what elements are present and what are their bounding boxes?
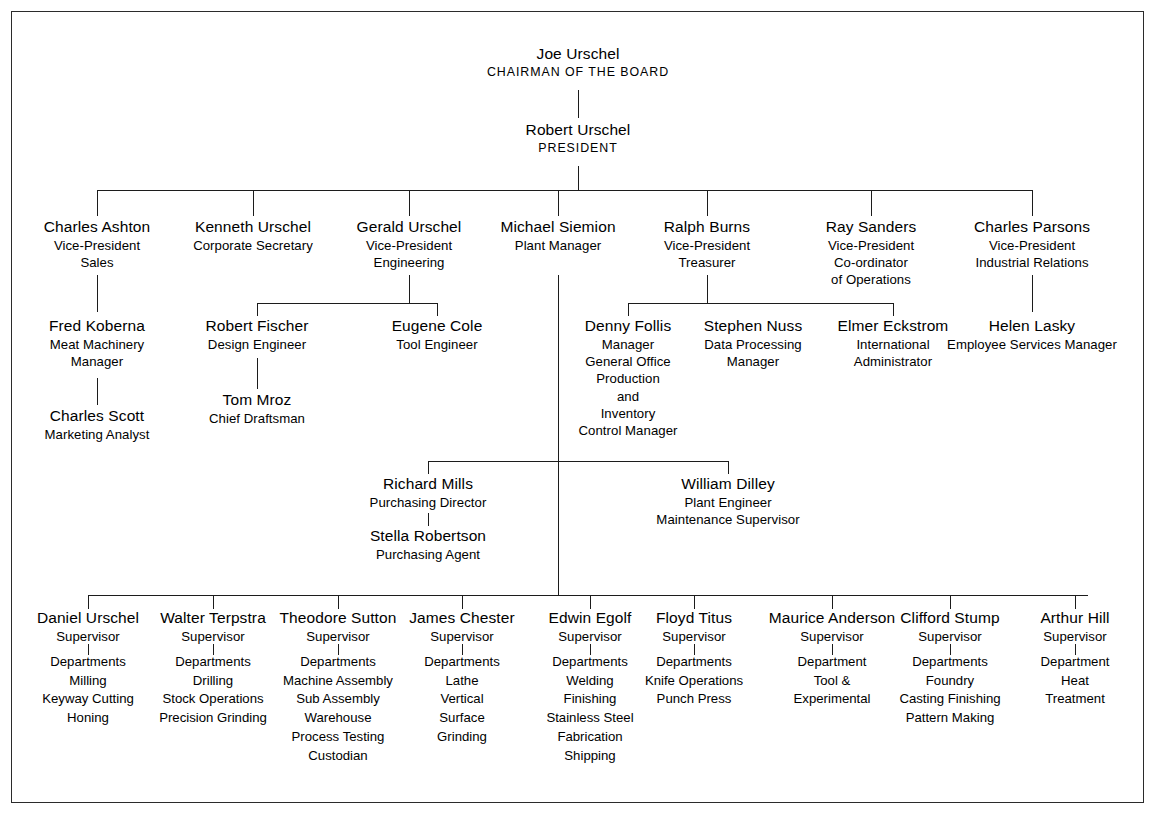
exec-title-2: Co-ordinator (781, 254, 961, 271)
node-richard-mills: Richard Mills Purchasing Director (338, 474, 518, 511)
connector-fischer-mroz (257, 358, 258, 389)
drop-exec-6 (1032, 190, 1033, 216)
node-charles-ashton: Charles Ashton Vice-President Sales (7, 217, 187, 271)
drop-sup-6 (832, 595, 833, 609)
person-name: Charles Scott (7, 406, 187, 426)
dept-header: Departments (614, 653, 774, 672)
exec-title-2: Sales (7, 254, 187, 271)
exec-title-1: Vice-President (617, 237, 797, 254)
drop-sup-4 (590, 595, 591, 609)
person-name: Helen Lasky (922, 316, 1142, 336)
node-ray-sanders: Ray Sanders Vice-President Co-ordinator … (781, 217, 961, 289)
person-name: Stella Robertson (338, 526, 518, 546)
person-title-6: Control Manager (548, 422, 708, 439)
person-title-1: Purchasing Agent (338, 546, 518, 563)
connector-president-bus (578, 166, 579, 190)
connector-chairman-president (578, 90, 579, 118)
supervisor-name: Arthur Hill (1000, 608, 1150, 628)
person-title-2: Manager (7, 353, 187, 370)
exec-title-1: Vice-President (942, 237, 1122, 254)
spine-plant-manager (558, 275, 559, 595)
drop-treas-eckstrom (893, 303, 894, 316)
person-title-1: Meat Machinery (7, 336, 187, 353)
exec-title-1: Vice-President (781, 237, 961, 254)
person-title-4: and (548, 388, 708, 405)
node-stella-robertson: Stella Robertson Purchasing Agent (338, 526, 518, 563)
bus-executive (97, 190, 1032, 191)
connector-mills-robertson (428, 513, 429, 526)
drop-exec-0 (97, 190, 98, 216)
dept-item: Punch Press (614, 690, 774, 709)
drop-sup-7 (950, 595, 951, 609)
bus-supervisors (88, 595, 1088, 596)
chairman-name: Joe Urschel (428, 44, 728, 64)
node-eugene-cole: Eugene Cole Tool Engineer (347, 316, 527, 353)
drop-eng-fischer (257, 303, 258, 316)
node-ralph-burns: Ralph Burns Vice-President Treasurer (617, 217, 797, 271)
exec-title-2: Treasurer (617, 254, 797, 271)
drop-exec-2 (409, 190, 410, 216)
exec-title-1: Vice-President (7, 237, 187, 254)
dept-item: Custodian (258, 747, 418, 766)
node-robert-fischer: Robert Fischer Design Engineer (167, 316, 347, 353)
bus-engineering (257, 303, 437, 304)
person-title-1: Tool Engineer (347, 336, 527, 353)
chairman-title: CHAIRMAN OF THE BOARD (428, 64, 728, 80)
person-title-5: Inventory (548, 405, 708, 422)
person-name: Fred Koberna (7, 316, 187, 336)
exec-title-1: Corporate Secretary (163, 237, 343, 254)
drop-eng-cole (437, 303, 438, 316)
dept-item: Stainless Steel (510, 709, 670, 728)
drop-sup-8 (1075, 595, 1076, 609)
person-title-1: Chief Draftsman (167, 410, 347, 427)
exec-name: Ralph Burns (617, 217, 797, 237)
connector-ashton-koberna (97, 275, 98, 312)
dept-item: Heat (1000, 672, 1150, 691)
person-title-2: Administrator (808, 353, 978, 370)
dept-item: Treatment (1000, 690, 1150, 709)
node-fred-koberna: Fred Koberna Meat Machinery Manager (7, 316, 187, 370)
drop-sup-1 (213, 595, 214, 609)
connector-gerald-bus (409, 275, 410, 303)
org-chart: Joe Urschel CHAIRMAN OF THE BOARD Robert… (0, 0, 1157, 816)
exec-name: Charles Ashton (7, 217, 187, 237)
node-tom-mroz: Tom Mroz Chief Draftsman (167, 390, 347, 427)
person-name: Eugene Cole (347, 316, 527, 336)
dept-item: Knife Operations (614, 672, 774, 691)
node-william-dilley: William Dilley Plant Engineer Maintenanc… (628, 474, 828, 528)
bus-plant-staff (428, 461, 728, 462)
drop-plant-mills (428, 461, 429, 474)
node-charles-parsons: Charles Parsons Vice-President Industria… (942, 217, 1122, 271)
dept-list-5: Departments Knife Operations Punch Press (614, 653, 774, 709)
exec-title-3: of Operations (781, 271, 961, 288)
dept-header: Department (1000, 653, 1150, 672)
president-name: Robert Urschel (428, 120, 728, 140)
person-title-2: Maintenance Supervisor (628, 511, 828, 528)
drop-exec-3 (558, 190, 559, 216)
exec-name: Kenneth Urschel (163, 217, 343, 237)
person-title-1: Plant Engineer (628, 494, 828, 511)
drop-treas-follis (628, 303, 629, 316)
person-title-1: Marketing Analyst (7, 426, 187, 443)
person-name: Tom Mroz (167, 390, 347, 410)
dept-item: Fabrication (510, 728, 670, 747)
drop-sup-5 (694, 595, 695, 609)
exec-name: Charles Parsons (942, 217, 1122, 237)
dept-item: Pattern Making (870, 709, 1030, 728)
person-title-1: Purchasing Director (338, 494, 518, 511)
node-helen-lasky: Helen Lasky Employee Services Manager (922, 316, 1142, 353)
dept-list-8: Department Heat Treatment (1000, 653, 1150, 709)
drop-sup-2 (338, 595, 339, 609)
drop-exec-1 (253, 190, 254, 216)
person-name: William Dilley (628, 474, 828, 494)
connector-parsons-lasky (1032, 275, 1033, 312)
node-chairman: Joe Urschel CHAIRMAN OF THE BOARD (428, 44, 728, 80)
node-charles-scott: Charles Scott Marketing Analyst (7, 406, 187, 443)
president-title: PRESIDENT (428, 140, 728, 156)
person-name: Robert Fischer (167, 316, 347, 336)
person-title-1: Design Engineer (167, 336, 347, 353)
bus-treasury (628, 303, 893, 304)
drop-sup-0 (88, 595, 89, 609)
person-title-3: Production (548, 370, 708, 387)
exec-name: Ray Sanders (781, 217, 961, 237)
